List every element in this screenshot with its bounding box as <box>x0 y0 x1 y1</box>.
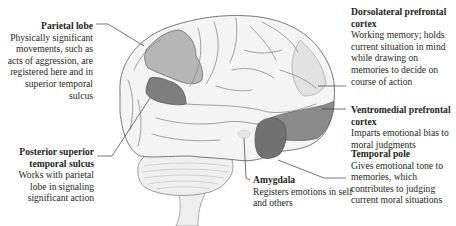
amygdala-region <box>238 130 250 138</box>
label-description: Physically significant movements, such a… <box>4 32 93 102</box>
label-title: Amygdala <box>253 174 353 186</box>
label-description: Imparts emotional bias to moral judgment… <box>351 127 455 150</box>
label-description: Works with parietal lobe in signaling si… <box>4 169 94 204</box>
label-title: Dorsolateral prefrontal cortex <box>351 6 455 29</box>
label-title: Temporal pole <box>351 148 455 160</box>
label-title: Parietal lobe <box>4 20 93 32</box>
label-temporal-pole: Temporal pole Gives emotional tone to me… <box>351 148 455 206</box>
leader-parietal <box>96 24 144 46</box>
label-description: Working memory; holds current situation … <box>351 29 455 87</box>
label-title: Posterior superior temporal sulcus <box>4 146 94 169</box>
label-title: Ventromedial prefrontal cortex <box>351 104 455 127</box>
label-posterior-superior-temporal-sulcus: Posterior superior temporal sulcus Works… <box>4 146 94 204</box>
dlpfc-region <box>292 40 326 96</box>
label-amygdala: Amygdala Registers emotions in self and … <box>253 174 353 209</box>
label-description: Gives emotional tone to memories, which … <box>351 160 455 206</box>
label-description: Registers emotions in self and others <box>253 186 353 209</box>
temporal-pole-region <box>255 118 286 159</box>
label-parietal-lobe: Parietal lobe Physically significant mov… <box>4 20 93 101</box>
label-ventromedial-prefrontal-cortex: Ventromedial prefrontal cortex Imparts e… <box>351 104 455 150</box>
label-dorsolateral-prefrontal-cortex: Dorsolateral prefrontal cortex Working m… <box>351 6 455 87</box>
